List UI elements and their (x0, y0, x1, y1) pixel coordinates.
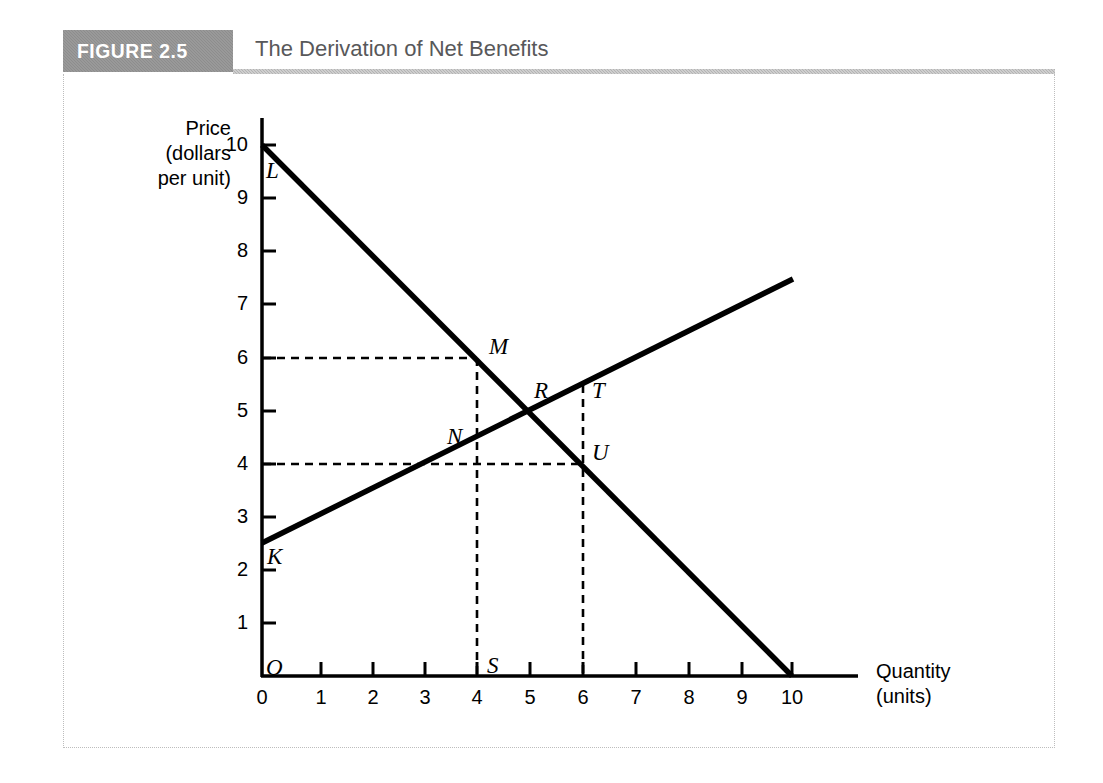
x-tick-label-6: 6 (570, 686, 596, 709)
point-label-U: U (592, 440, 609, 466)
x-tick-label-0: 0 (249, 686, 275, 709)
y-tick-label-4: 4 (222, 452, 248, 475)
point-label-R: R (534, 378, 548, 404)
y-axis-title-line-2: (dollars (158, 141, 231, 166)
point-label-N: N (447, 424, 462, 450)
x-axis-title-line-2: (units) (876, 684, 950, 709)
x-tick-label-10: 10 (779, 686, 805, 709)
point-label-S: S (487, 653, 499, 679)
x-tick-label-1: 1 (308, 686, 334, 709)
x-tick-label-5: 5 (517, 686, 543, 709)
y-tick-label-8: 8 (222, 239, 248, 262)
x-tick-label-9: 9 (729, 686, 755, 709)
point-label-T: T (592, 378, 605, 404)
y-tick-label-7: 7 (222, 292, 248, 315)
y-tick-label-3: 3 (222, 505, 248, 528)
x-tick-label-8: 8 (676, 686, 702, 709)
point-label-L: L (266, 158, 279, 184)
y-axis-title-line-3: per unit) (158, 166, 231, 191)
supply-curve (262, 279, 793, 543)
chart-plot-area: 10 9 8 7 6 5 4 3 2 1 0 1 2 3 4 5 6 7 8 9… (0, 0, 1103, 783)
x-tick-label-2: 2 (360, 686, 386, 709)
x-tick-label-4: 4 (464, 686, 490, 709)
y-tick-label-2: 2 (222, 558, 248, 581)
x-tick-label-7: 7 (623, 686, 649, 709)
point-label-O: O (266, 655, 283, 681)
y-tick-label-1: 1 (222, 611, 248, 634)
x-axis-ticks (321, 662, 792, 676)
y-tick-label-5: 5 (222, 399, 248, 422)
y-axis-title: Price (dollars per unit) (158, 116, 231, 191)
y-tick-label-6: 6 (222, 346, 248, 369)
x-tick-label-3: 3 (412, 686, 438, 709)
point-label-M: M (489, 334, 508, 360)
x-axis-title: Quantity (units) (876, 659, 950, 709)
point-label-K: K (267, 544, 282, 570)
y-axis-title-line-1: Price (158, 116, 231, 141)
x-axis-title-line-1: Quantity (876, 659, 950, 684)
